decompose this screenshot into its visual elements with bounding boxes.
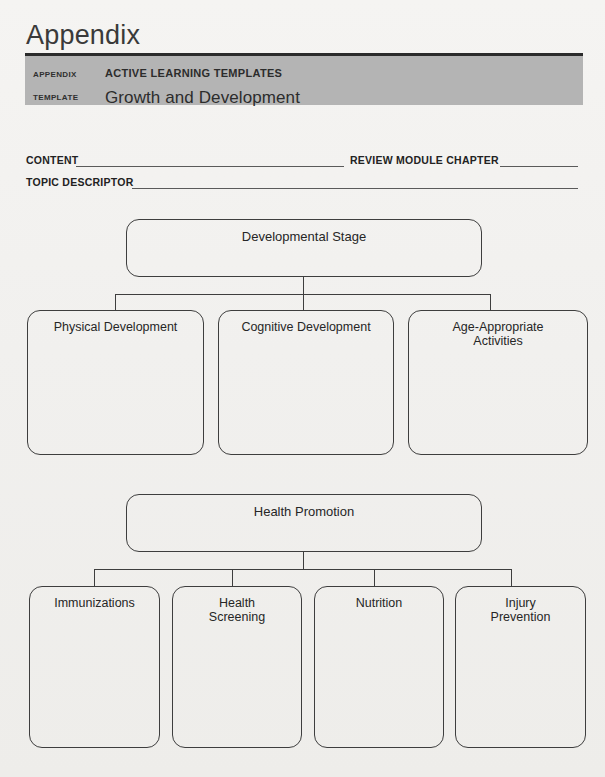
topic-descriptor-field-writeline[interactable] bbox=[132, 188, 578, 189]
diagram-node-cognitive-development[interactable]: Cognitive Development bbox=[218, 310, 394, 455]
connector-drop-health-screening bbox=[232, 569, 233, 586]
diagram-node-label: Age-AppropriateActivities bbox=[409, 311, 587, 349]
diagram-node-label: Developmental Stage bbox=[127, 220, 481, 245]
connector-stem-section-1 bbox=[303, 277, 304, 295]
diagram-node-label: Immunizations bbox=[30, 587, 159, 610]
connector-drop-nutrition bbox=[374, 569, 375, 586]
diagram-node-nutrition[interactable]: Nutrition bbox=[314, 586, 444, 748]
page-canvas: Appendix APPENDIX ACTIVE LEARNING TEMPLA… bbox=[0, 0, 605, 777]
template-header-row-appendix: APPENDIX ACTIVE LEARNING TEMPLATES bbox=[25, 67, 583, 79]
template-header-bar: APPENDIX ACTIVE LEARNING TEMPLATES TEMPL… bbox=[25, 56, 583, 105]
review-module-chapter-field-label: REVIEW MODULE CHAPTER bbox=[350, 154, 499, 166]
appendix-value-label: ACTIVE LEARNING TEMPLATES bbox=[105, 67, 282, 79]
topic-descriptor-field-label: TOPIC DESCRIPTOR bbox=[26, 176, 133, 188]
diagram-node-label: Nutrition bbox=[315, 587, 443, 610]
page-title: Appendix bbox=[26, 22, 140, 49]
diagram-node-label: InjuryPrevention bbox=[456, 587, 585, 625]
diagram-node-physical-development[interactable]: Physical Development bbox=[27, 310, 204, 455]
connector-drop-age-appropriate-activities bbox=[490, 294, 491, 311]
connector-drop-immunizations bbox=[94, 569, 95, 586]
review-module-chapter-field-writeline[interactable] bbox=[500, 166, 578, 167]
diagram-node-health-promotion[interactable]: Health Promotion bbox=[126, 494, 482, 552]
diagram-node-label: Health Promotion bbox=[127, 495, 481, 520]
diagram-node-health-screening[interactable]: HealthScreening bbox=[172, 586, 302, 748]
connector-drop-cognitive-development bbox=[303, 294, 304, 311]
connector-bus-section-2 bbox=[94, 569, 512, 570]
diagram-node-label: Physical Development bbox=[28, 311, 203, 334]
connector-drop-physical-development bbox=[115, 294, 116, 311]
template-key-label: TEMPLATE bbox=[33, 93, 105, 102]
content-field-writeline[interactable] bbox=[76, 166, 344, 167]
diagram-node-immunizations[interactable]: Immunizations bbox=[29, 586, 160, 748]
diagram-node-label: Cognitive Development bbox=[219, 311, 393, 334]
connector-drop-injury-prevention bbox=[511, 569, 512, 586]
template-header-row-template: TEMPLATE Growth and Development bbox=[25, 85, 583, 105]
diagram-node-age-appropriate-activities[interactable]: Age-AppropriateActivities bbox=[408, 310, 588, 455]
connector-stem-section-2 bbox=[303, 552, 304, 570]
diagram-node-injury-prevention[interactable]: InjuryPrevention bbox=[455, 586, 586, 748]
template-name-label: Growth and Development bbox=[105, 88, 300, 108]
diagram-node-label: HealthScreening bbox=[173, 587, 301, 625]
appendix-key-label: APPENDIX bbox=[33, 70, 105, 79]
diagram-node-developmental-stage[interactable]: Developmental Stage bbox=[126, 219, 482, 277]
content-field-label: CONTENT bbox=[26, 154, 79, 166]
